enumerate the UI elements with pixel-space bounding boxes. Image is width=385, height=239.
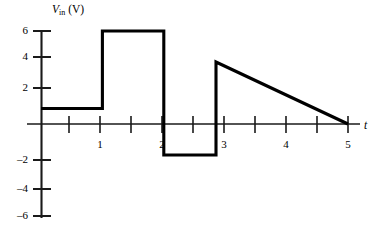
x-tick-label-5: 5 <box>338 139 358 150</box>
x-tick-label-1: 1 <box>90 139 110 150</box>
y-axis-title-var: V <box>52 3 59 15</box>
y-tick-label-4: 4 <box>8 51 28 62</box>
y-tick-label-2: 2 <box>8 82 28 93</box>
y-tick-label-neg2: –2 <box>4 154 28 165</box>
y-axis-title: Vin (V) <box>52 3 84 19</box>
x-tick-label-4: 4 <box>276 139 296 150</box>
waveform-figure: Vin (V) t 6 4 2 –2 –4 –6 1 2 3 4 5 <box>0 0 385 239</box>
waveform-plot <box>0 0 385 239</box>
x-axis-title: t <box>364 119 367 131</box>
y-tick-label-neg6: –6 <box>4 210 28 221</box>
y-tick-label-neg4: –4 <box>4 183 28 194</box>
y-tick-label-6: 6 <box>8 25 28 36</box>
waveform-trace <box>41 31 348 155</box>
y-axis-title-units: (V) <box>68 3 84 15</box>
x-tick-label-3: 3 <box>214 139 234 150</box>
x-tick-label-2: 2 <box>152 139 172 150</box>
